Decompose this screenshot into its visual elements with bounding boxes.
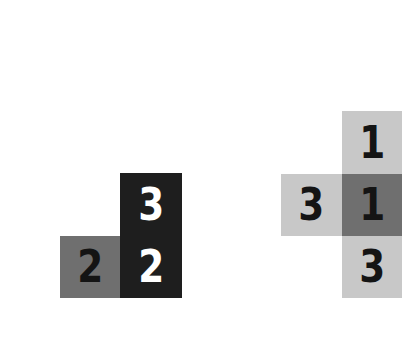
left-cell-bottom-right: 2 [120,236,182,298]
right-cell-center-value: 1 [359,183,385,227]
left-cell-top-right: 3 [120,173,182,236]
right-cell-bottom: 3 [342,236,402,298]
left-cell-bottom-left: 2 [60,236,120,298]
right-cell-middle-left: 3 [281,174,342,236]
left-cell-top-right-value: 3 [138,183,164,227]
right-cell-center: 1 [342,174,402,236]
right-cell-top: 1 [342,111,402,174]
right-cell-bottom-value: 3 [359,245,385,289]
right-cell-top-value: 1 [359,121,385,165]
left-cell-bottom-right-value: 2 [138,245,164,289]
left-cell-bottom-left-value: 2 [77,245,103,289]
right-cell-middle-left-value: 3 [298,183,324,227]
